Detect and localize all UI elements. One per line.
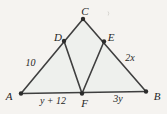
point-A-dot <box>19 91 23 95</box>
point-C-dot <box>81 17 85 21</box>
vertex-label-C: C <box>81 5 89 17</box>
triangle-diagram: C D E A B F 10 2x y + 12 3y <box>0 0 167 114</box>
point-D-dot <box>62 39 66 43</box>
measure-label-AF: y + 12 <box>39 95 66 106</box>
vertex-label-A: A <box>5 90 13 102</box>
measure-label-AD: 10 <box>26 57 36 68</box>
point-B-dot <box>144 89 148 93</box>
vertex-label-E: E <box>107 31 115 43</box>
vertex-label-F: F <box>80 97 88 109</box>
scan-artifact-mark <box>108 12 109 16</box>
vertex-label-D: D <box>53 31 62 43</box>
point-E-dot <box>102 39 106 43</box>
measure-label-FB: 3y <box>112 93 123 104</box>
geometry-figure: C D E A B F 10 2x y + 12 3y <box>0 0 167 114</box>
vertex-label-B: B <box>154 90 161 102</box>
measure-label-EB: 2x <box>125 52 135 63</box>
point-F-dot <box>80 91 84 95</box>
